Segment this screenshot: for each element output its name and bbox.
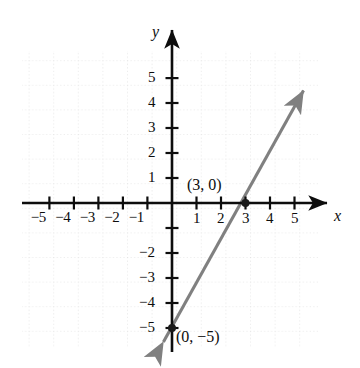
x-tick-label--5: −5 [26, 210, 51, 225]
y-tick-label--3: −3 [139, 270, 155, 285]
y-tick-label-5: 5 [148, 70, 156, 85]
point-0-neg5 [168, 324, 176, 332]
y-tick-label-1: 1 [148, 170, 156, 185]
coordinate-plane-figure: y x −5 −4 −3 −2 −1 1 2 3 4 5 5 4 3 2 1 −… [0, 0, 360, 368]
x-tick-label--1: −1 [124, 210, 149, 225]
y-tick-label-3: 3 [148, 120, 156, 135]
x-axis-label: x [334, 208, 341, 224]
x-tick-label--4: −4 [51, 210, 76, 225]
y-tick-label--4: −4 [139, 295, 155, 310]
y-tick-label-2: 2 [148, 145, 156, 160]
x-tick-label-4: 4 [266, 211, 274, 226]
y-axis-label: y [152, 24, 159, 40]
y-tick-label-4: 4 [148, 95, 156, 110]
point-3-0 [242, 199, 250, 207]
x-tick-label--3: −3 [75, 210, 100, 225]
graph-canvas [0, 0, 360, 368]
annotation-point-0-neg5: (0, −5) [176, 329, 220, 345]
x-tick-label-5: 5 [291, 211, 299, 226]
x-tick-label--2: −2 [100, 210, 125, 225]
y-tick-label--5: −5 [139, 320, 155, 335]
x-tick-label-1: 1 [193, 211, 201, 226]
annotation-point-3-0: (3, 0) [187, 177, 222, 193]
x-tick-label-2: 2 [217, 211, 225, 226]
x-tick-labels-negative: −5 −4 −3 −2 −1 [26, 210, 149, 225]
y-tick-label--2: −2 [139, 245, 155, 260]
x-tick-label-3: 3 [242, 211, 250, 226]
